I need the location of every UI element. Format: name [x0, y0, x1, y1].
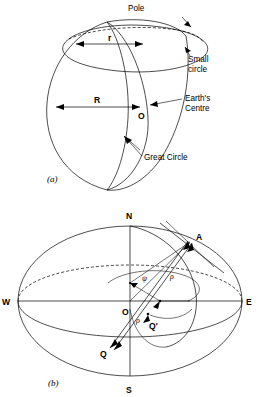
great-circle-leader-arrow: [124, 136, 142, 156]
label-west: W: [2, 297, 11, 307]
sphere-wedge-outline: [47, 20, 188, 191]
tangent-line-secondary: [166, 221, 214, 267]
label-north: N: [126, 211, 132, 221]
label-east: E: [246, 297, 252, 307]
label-origin-o: O: [138, 111, 145, 121]
caption-a: (a): [47, 174, 58, 184]
label-radius-R: R: [94, 95, 101, 105]
normal-line-ticks: [143, 300, 161, 323]
label-earths-centre-line2: Centre: [185, 104, 210, 113]
earths-centre-leader-arrow: [150, 99, 182, 107]
panel-a-diagram: r R O Pole Small circle: [0, 0, 260, 200]
label-earths-centre-line1: Earth's: [185, 94, 210, 103]
label-radius-r: r: [108, 33, 112, 43]
label-south: S: [126, 385, 132, 395]
pole-leader-arrow: [182, 17, 191, 27]
label-point-q-prime: Q': [149, 321, 158, 331]
label-small-circle-line2: circle: [188, 65, 208, 74]
label-point-a: A: [196, 232, 202, 242]
caption-b: (b): [48, 378, 59, 388]
panel-b-svg: N S W E O A Q Q' ψ ρ ρ (b): [0, 197, 260, 397]
panel-b-diagram: N S W E O A Q Q' ψ ρ ρ (b): [0, 197, 260, 397]
label-great-circle: Great Circle: [144, 153, 188, 162]
label-angle-rho: ρ: [135, 316, 140, 325]
label-length-p: ρ: [169, 272, 174, 281]
label-origin-o: O: [122, 307, 129, 317]
label-angle-psi: ψ: [142, 274, 148, 283]
panel-a-svg: r R O Pole Small circle: [0, 0, 260, 200]
figure-root: r R O Pole Small circle: [0, 0, 260, 397]
parallel-through-a: [108, 271, 199, 301]
label-pole: Pole: [128, 4, 145, 13]
label-small-circle-line1: Small: [188, 55, 209, 64]
q-prime-connector: [150, 309, 192, 318]
label-point-q: Q: [100, 349, 107, 359]
normal-line-q-to-a: [110, 241, 194, 350]
